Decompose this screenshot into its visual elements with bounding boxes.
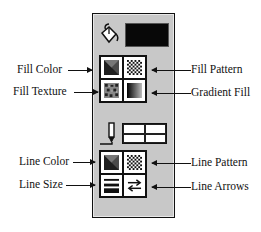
callout-fill-color: Fill Color [17,63,62,76]
callout-gradient-fill: Gradient Fill [191,86,250,99]
callout-arrow-line-arrows [152,187,191,188]
line-color-icon [104,155,119,170]
line-size-icon [104,178,119,193]
fill-buttons-grid [99,55,147,103]
callout-line-color: Line Color [19,155,69,168]
fill-color-button[interactable] [100,56,123,79]
callout-arrow-line-size [66,185,95,186]
fill-pattern-icon [127,60,142,75]
current-line-style-swatch[interactable] [122,123,167,144]
line-buttons-grid [99,150,147,198]
callout-arrow-fill-pattern [152,70,191,71]
line-pattern-button[interactable] [123,151,146,174]
line-arrows-icon [127,178,142,193]
fill-pattern-button[interactable] [123,56,146,79]
fill-color-icon [104,60,119,75]
callout-arrow-line-pattern [152,163,191,164]
callout-arrow-line-color [73,162,95,163]
callout-line-size: Line Size [19,178,63,191]
callout-line-pattern: Line Pattern [191,156,248,169]
fill-texture-icon [104,83,119,98]
callout-arrow-fill-texture [74,92,98,93]
line-pattern-icon [127,155,142,170]
callout-line-arrows: Line Arrows [191,180,249,193]
paint-bucket-icon[interactable] [99,21,121,47]
line-pen-icon[interactable] [99,121,119,147]
gradient-fill-icon [127,83,142,98]
callout-fill-texture: Fill Texture [13,85,67,98]
callout-fill-pattern: Fill Pattern [191,63,242,76]
line-color-button[interactable] [100,151,123,174]
fill-texture-button[interactable] [100,79,123,102]
callout-arrow-fill-color [68,70,92,71]
gradient-fill-button[interactable] [123,79,146,102]
callout-arrow-gradient-fill [152,93,191,94]
line-size-button[interactable] [100,174,123,197]
line-arrows-button[interactable] [123,174,146,197]
current-fill-color-swatch[interactable] [125,23,169,47]
